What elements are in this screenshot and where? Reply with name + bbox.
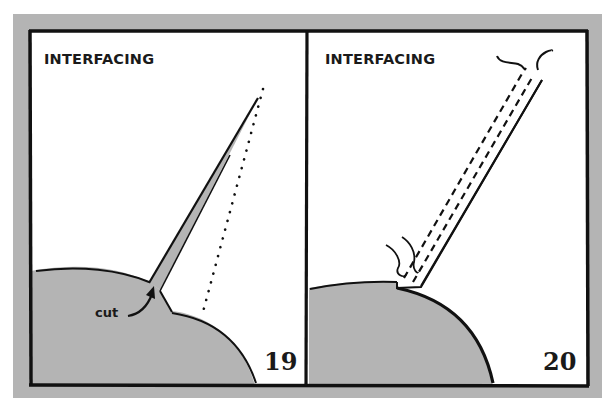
- panel-divider: [306, 31, 307, 386]
- panel-20-title: INTERFACING: [325, 51, 435, 67]
- panel-19-number: 19: [264, 347, 297, 376]
- cut-label: cut: [95, 305, 118, 320]
- panel-20-number: 20: [543, 347, 576, 376]
- panel-19-title: INTERFACING: [44, 51, 154, 67]
